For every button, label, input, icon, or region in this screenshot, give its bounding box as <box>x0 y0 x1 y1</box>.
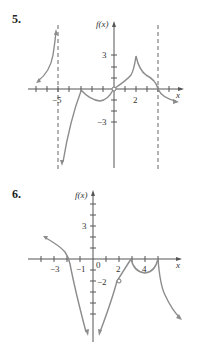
x-tick-label: 4 <box>142 264 147 274</box>
x-tick-label: −3 <box>50 264 60 274</box>
x-axis-label-6: x <box>175 260 180 270</box>
x-tick-label: 2 <box>133 95 138 105</box>
y-tick-label: −2 <box>97 277 107 287</box>
y-tick-label: 3 <box>102 50 107 60</box>
y-tick-label: −3 <box>97 117 107 127</box>
x-tick-label: −1 <box>76 264 86 274</box>
graph-5: f(x) x −5 2 3 −3 <box>0 0 200 175</box>
y-axis-label-5: f(x) <box>96 19 109 29</box>
x-tick-label: 2 <box>116 264 121 274</box>
x-axis-label-5: x <box>175 90 180 100</box>
y-tick-label: 3 <box>82 221 87 231</box>
x-tick-label: −5 <box>52 95 62 105</box>
x-tick-label: 0 <box>96 260 101 270</box>
graph-6: f(x) x −3 −1 0 2 4 3 −2 <box>0 175 200 353</box>
y-axis-label-6: f(x) <box>75 190 88 200</box>
